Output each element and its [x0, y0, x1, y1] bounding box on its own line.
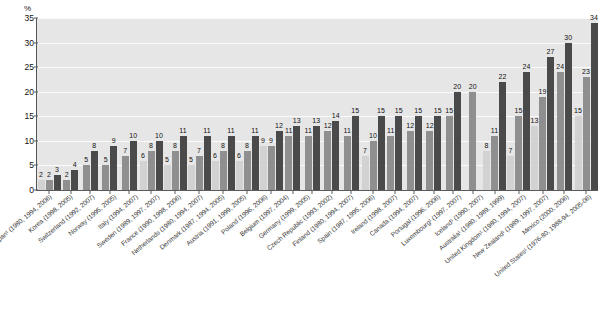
bar-value-label: 14: [332, 111, 340, 120]
bar: 15: [446, 116, 453, 190]
bar-group: 1214: [322, 18, 342, 190]
bar-value-label: 15: [351, 106, 359, 115]
bar: 2: [46, 180, 53, 190]
bar-group: 2430: [555, 18, 575, 190]
bar: 10: [130, 141, 137, 190]
bar-value-label: 8: [92, 141, 96, 150]
bar: 6: [236, 161, 243, 190]
bar-value-label: 7: [509, 146, 513, 155]
bar-value-label: 5: [165, 155, 169, 164]
bar: 6: [140, 161, 147, 190]
bar-value-label: 12: [406, 121, 414, 130]
bar: 15: [395, 116, 402, 190]
bar-value-label: 3: [55, 165, 59, 174]
bar-value-label: 20: [469, 82, 477, 91]
bar-value-label: 15: [515, 106, 523, 115]
bar: 15: [352, 116, 359, 190]
bar-value-label: 11: [387, 126, 394, 135]
bar: 23: [583, 77, 590, 190]
bar: 27: [547, 57, 554, 190]
bar-group: 1115: [385, 18, 405, 190]
bar-chart: % 05101520253035 22324585971068105811571…: [0, 0, 611, 334]
bar: 15: [415, 116, 422, 190]
bar: 2: [38, 180, 45, 190]
bar-group: 6811: [211, 18, 235, 190]
bar-value-label: 5: [104, 155, 108, 164]
x-axis-labels: Japan¹ (1980, 1994, 2006)Korea (1998, 20…: [37, 193, 598, 333]
bar-value-label: 11: [251, 126, 258, 135]
bar-value-label: 6: [237, 151, 241, 160]
bar-value-label: 12: [324, 121, 332, 130]
bar-group: 58: [81, 18, 101, 190]
bar-value-label: 8: [221, 141, 225, 150]
bar-value-label: 19: [539, 87, 547, 96]
bar: 7: [196, 156, 203, 190]
bar-value-label: 8: [245, 141, 249, 150]
bar-group: 1113: [283, 18, 303, 190]
bar-value-label: 8: [149, 141, 153, 150]
y-tick-label: 20: [18, 87, 34, 97]
bar-value-label: 7: [123, 146, 127, 155]
bar: 15: [378, 116, 385, 190]
bar-group: 1113: [303, 18, 323, 190]
bar-group: 9912: [259, 18, 283, 190]
bar: 19: [539, 97, 546, 190]
bar-group: 131927: [531, 18, 555, 190]
bar: 11: [344, 136, 351, 190]
bar: 12: [324, 131, 331, 190]
bar-value-label: 2: [39, 170, 43, 179]
bar: 8: [483, 151, 490, 190]
y-axis: 05101520253035: [14, 18, 34, 190]
bar: 10: [370, 141, 377, 190]
bar: 8: [148, 151, 155, 190]
bar-value-label: 34: [590, 13, 598, 22]
bar: 15: [575, 116, 582, 190]
bar: 14: [332, 121, 339, 190]
bar: 24: [557, 72, 564, 190]
bar-value-label: 13: [531, 116, 539, 125]
bar: 34: [591, 23, 598, 190]
bar-value-label: 12: [426, 121, 434, 130]
bar: 5: [102, 165, 109, 190]
bar: 22: [499, 82, 506, 190]
bar-value-label: 11: [179, 126, 186, 135]
bar-group: 81122: [483, 18, 507, 190]
bar: 30: [565, 43, 572, 190]
bar-group: 6810: [139, 18, 163, 190]
bar-value-label: 30: [564, 33, 572, 42]
bar-group: 6811: [235, 18, 259, 190]
y-axis-unit-label: %: [24, 4, 31, 13]
bar-value-label: 15: [414, 106, 422, 115]
bar: 11: [180, 136, 187, 190]
bar: 20: [454, 92, 461, 190]
bar: 12: [407, 131, 414, 190]
y-tick-label: 30: [18, 38, 34, 48]
bar-value-label: 9: [261, 136, 265, 145]
bar-value-label: 9: [269, 136, 273, 145]
bar-value-label: 10: [155, 131, 163, 140]
bar-value-label: 7: [363, 146, 367, 155]
bar-value-label: 20: [453, 82, 461, 91]
bar: 8: [220, 151, 227, 190]
y-tick-label: 5: [18, 160, 34, 170]
y-tick-label: 35: [18, 13, 34, 23]
bar-value-label: 12: [275, 121, 283, 130]
bar-value-label: 11: [227, 126, 234, 135]
bar-value-label: 6: [213, 151, 217, 160]
bar-value-label: 15: [395, 106, 403, 115]
bar: 11: [387, 136, 394, 190]
bar-value-label: 5: [189, 155, 193, 164]
bar-value-label: 11: [491, 126, 498, 135]
bar-value-label: 9: [112, 136, 116, 145]
bar-value-label: 15: [377, 106, 385, 115]
bar: 7: [362, 156, 369, 190]
bar-group: 152334: [574, 18, 598, 190]
bar: 5: [188, 165, 195, 190]
bar-value-label: 27: [547, 47, 555, 56]
x-axis-baseline: [36, 190, 598, 191]
bar: 10: [156, 141, 163, 190]
bar: 13: [293, 126, 300, 190]
bar-value-label: 11: [344, 126, 351, 135]
bar: 24: [523, 72, 530, 190]
bar: 11: [305, 136, 312, 190]
